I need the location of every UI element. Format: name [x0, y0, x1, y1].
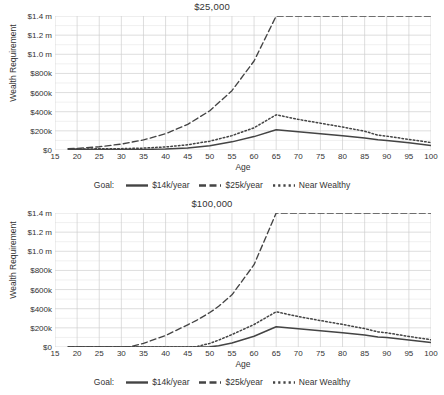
chart-panel-2: $100,000 Wealth Requirement $0$200k$400k… [0, 197, 444, 395]
y-tick-label: $800k [30, 266, 52, 275]
legend-item[interactable]: $14k/year [126, 377, 189, 387]
legend-item[interactable]: Near Wealthy [273, 180, 350, 190]
panel-title: $25,000 [0, 1, 444, 12]
x-tick-label: 40 [161, 152, 170, 161]
legend-line-icon [199, 378, 221, 387]
figure-root: $25,000 Wealth Requirement $0$200k$400k$… [0, 0, 444, 395]
x-tick-label: 35 [139, 152, 148, 161]
legend-label: $14k/year [152, 377, 189, 387]
plot-svg-2 [55, 213, 431, 347]
legend-item[interactable]: $14k/year [126, 180, 189, 190]
legend-title: Goal: [94, 377, 114, 387]
legend: Goal: $14k/year$25k/yearNear Wealthy [0, 377, 444, 387]
x-tick-label: 20 [73, 152, 82, 161]
x-tick-label: 95 [404, 349, 413, 358]
legend-line-icon [199, 181, 221, 190]
x-tick-label: 85 [360, 152, 369, 161]
x-tick-label: 15 [51, 349, 60, 358]
legend-title: Goal: [94, 180, 114, 190]
x-tick-label: 85 [360, 349, 369, 358]
y-tick-label: $1.2 m [28, 228, 52, 237]
y-tick-label: $1.4 m [28, 209, 52, 218]
x-tick-label: 80 [338, 349, 347, 358]
legend-label: $25k/year [225, 180, 262, 190]
y-tick-label: $1.0 m [28, 247, 52, 256]
x-tick-label: 65 [272, 152, 281, 161]
panel-title: $100,000 [0, 198, 444, 209]
x-tick-label: 90 [382, 349, 391, 358]
plot-svg-1 [55, 16, 431, 150]
x-tick-label: 55 [227, 152, 236, 161]
x-tick-label: 25 [95, 349, 104, 358]
x-tick-label: 40 [161, 349, 170, 358]
y-tick-label: $600k [30, 285, 52, 294]
legend-label: Near Wealthy [299, 377, 350, 387]
x-tick-label: 95 [404, 152, 413, 161]
legend-label: $25k/year [225, 377, 262, 387]
x-tick-label: 35 [139, 349, 148, 358]
x-tick-label: 15 [51, 152, 60, 161]
x-tick-label: 80 [338, 152, 347, 161]
x-tick-label: 45 [183, 349, 192, 358]
y-tick-label: $1.2 m [28, 31, 52, 40]
legend-line-icon [126, 181, 148, 190]
x-tick-label: 50 [205, 152, 214, 161]
y-tick-label: $200k [30, 323, 52, 332]
legend-item[interactable]: $25k/year [199, 377, 262, 387]
x-tick-label: 75 [316, 349, 325, 358]
x-tick-label: 50 [205, 349, 214, 358]
y-tick-label: $400k [30, 304, 52, 313]
y-tick-label: $400k [30, 107, 52, 116]
series-line [68, 130, 431, 150]
y-tick-label: $600k [30, 88, 52, 97]
x-tick-label: 55 [227, 349, 236, 358]
x-axis-label: Age [55, 162, 431, 172]
x-tick-label: 90 [382, 152, 391, 161]
legend-line-icon [273, 181, 295, 190]
y-tick-label: $1.4 m [28, 12, 52, 21]
plot-area-2 [55, 213, 431, 347]
y-axis-ticks: $0$200k$400k$600k$800k$1.0 m$1.2 m$1.4 m [0, 213, 52, 347]
y-tick-label: $200k [30, 126, 52, 135]
plot-area-1 [55, 16, 431, 150]
legend-item[interactable]: $25k/year [199, 180, 262, 190]
legend-line-icon [273, 378, 295, 387]
x-tick-label: 25 [95, 152, 104, 161]
x-tick-label: 30 [117, 152, 126, 161]
x-tick-label: 100 [424, 152, 437, 161]
x-tick-label: 60 [250, 349, 259, 358]
x-tick-label: 70 [294, 152, 303, 161]
y-tick-label: $1.0 m [28, 50, 52, 59]
series-line [68, 327, 431, 347]
x-tick-label: 20 [73, 349, 82, 358]
y-axis-ticks: $0$200k$400k$600k$800k$1.0 m$1.2 m$1.4 m [0, 16, 52, 150]
x-tick-label: 100 [424, 349, 437, 358]
legend-line-icon [126, 378, 148, 387]
series-line [68, 312, 431, 347]
y-tick-label: $800k [30, 69, 52, 78]
x-tick-label: 75 [316, 152, 325, 161]
legend-label: $14k/year [152, 180, 189, 190]
x-axis-label: Age [55, 359, 431, 369]
x-tick-label: 45 [183, 152, 192, 161]
legend: Goal: $14k/year$25k/yearNear Wealthy [0, 180, 444, 190]
legend-item[interactable]: Near Wealthy [273, 377, 350, 387]
legend-label: Near Wealthy [299, 180, 350, 190]
x-tick-label: 30 [117, 349, 126, 358]
chart-panel-1: $25,000 Wealth Requirement $0$200k$400k$… [0, 0, 444, 197]
x-tick-label: 70 [294, 349, 303, 358]
x-tick-label: 60 [250, 152, 259, 161]
x-tick-label: 65 [272, 349, 281, 358]
